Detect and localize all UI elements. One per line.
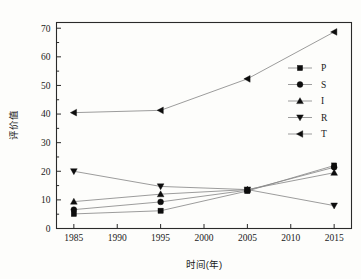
legend-marker-t [296, 131, 302, 138]
legend-label-i: I [321, 96, 324, 106]
x-tick-label: 1995 [151, 233, 170, 243]
data-point-t [157, 107, 163, 114]
legend-marker-p [297, 65, 302, 70]
legend-label-s: S [321, 80, 326, 90]
plot-frame [57, 23, 352, 229]
x-tick-label: 2015 [325, 233, 344, 243]
data-point-t [331, 29, 337, 36]
y-tick-label: 10 [41, 195, 51, 205]
y-axis-tick-labels: 010203040506070 [41, 24, 51, 234]
x-axis-tick-labels: 1985199019952000200520102015 [64, 233, 344, 243]
y-tick-label: 70 [41, 24, 51, 34]
y-tick-label: 40 [41, 109, 51, 119]
data-series-group [70, 29, 337, 217]
y-tick-label: 50 [41, 81, 51, 91]
x-axis-ticks [74, 224, 334, 229]
data-point-p [158, 208, 163, 213]
data-point-i [331, 169, 338, 175]
x-tick-label: 2000 [195, 233, 214, 243]
series-line-p [74, 166, 334, 214]
legend-label-r: R [321, 113, 328, 123]
data-point-t [70, 109, 76, 116]
y-axis-label: 评价值 [8, 110, 19, 140]
x-tick-label: 1990 [108, 233, 127, 243]
x-tick-label: 1985 [64, 233, 83, 243]
x-tick-label: 2010 [281, 233, 300, 243]
x-axis-label: 时间(年) [186, 259, 222, 270]
data-point-t [244, 76, 250, 83]
y-tick-label: 20 [41, 167, 51, 177]
series-line-t [74, 32, 334, 113]
series-line-s [74, 167, 334, 209]
data-point-r [331, 203, 338, 209]
y-tick-label: 0 [46, 224, 51, 234]
chart-legend: PSIRT [288, 63, 328, 139]
y-axis-ticks [57, 28, 62, 228]
legend-marker-s [297, 82, 303, 88]
data-point-s [158, 199, 164, 205]
chart-figure: 1985199019952000200520102015 01020304050… [0, 0, 361, 279]
legend-label-t: T [321, 129, 327, 139]
legend-label-p: P [321, 63, 326, 73]
x-tick-label: 2005 [238, 233, 257, 243]
data-point-s [71, 207, 77, 213]
y-tick-label: 30 [41, 138, 51, 148]
chart-canvas: 1985199019952000200520102015 01020304050… [0, 0, 361, 279]
y-tick-label: 60 [41, 52, 51, 62]
